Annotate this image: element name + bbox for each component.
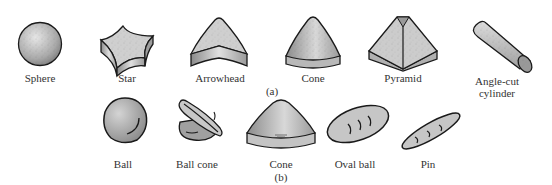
pin-shape <box>397 111 465 151</box>
caption-b: (b) <box>275 171 288 183</box>
label-angle-cut-cylinder: Angle-cut cylinder <box>475 75 519 99</box>
label-sphere: Sphere <box>25 72 56 84</box>
label-cone-b: Cone <box>269 158 292 170</box>
arrowhead-shape <box>187 16 251 72</box>
sphere-shape <box>17 20 63 68</box>
label-oval-ball: Oval ball <box>335 158 376 170</box>
oval-ball-shape <box>324 102 392 146</box>
label-line-2: cylinder <box>475 87 519 99</box>
cone-shape-a <box>282 14 344 72</box>
ball-shape <box>101 96 149 144</box>
label-arrowhead: Arrowhead <box>195 72 244 84</box>
label-ball: Ball <box>114 158 132 170</box>
ball-cone-shape <box>172 98 224 144</box>
label-pyramid: Pyramid <box>384 72 421 84</box>
label-star: Star <box>118 72 136 84</box>
pyramid-shape <box>367 13 439 73</box>
cone-shape-b <box>243 97 319 153</box>
star-shape <box>99 24 159 72</box>
label-ball-cone: Ball cone <box>176 158 218 170</box>
label-line-1: Angle-cut <box>475 75 519 87</box>
caption-a: (a) <box>266 85 278 97</box>
label-pin: Pin <box>421 158 436 170</box>
angle-cut-cylinder-shape <box>468 17 538 73</box>
label-cone-a: Cone <box>301 72 324 84</box>
